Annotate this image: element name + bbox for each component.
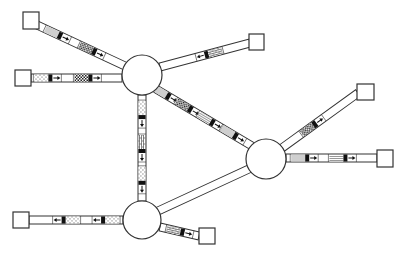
host-node-H4[interactable] [357,84,374,100]
host-node-H1[interactable] [23,12,39,29]
link-L8 [156,164,252,214]
host-node-H7[interactable] [199,228,215,244]
links-layer [29,21,377,240]
switch-node-S2[interactable] [246,139,286,179]
link-L4 [152,84,255,149]
nodes-layer [13,12,393,244]
network-diagram [0,0,408,257]
link-L10 [159,223,200,240]
link-L2 [31,74,122,82]
host-node-H6[interactable] [13,212,29,228]
link-L3 [159,39,251,71]
host-node-H3[interactable] [249,34,264,50]
switch-node-S1[interactable] [122,55,162,95]
link-L5 [280,90,361,151]
link-L9 [29,216,123,224]
link-L7 [138,95,146,201]
link-L6 [286,154,377,162]
host-node-H2[interactable] [15,70,31,86]
switch-node-S3[interactable] [123,201,161,239]
host-node-H5[interactable] [377,150,393,167]
link-L1 [35,21,126,69]
